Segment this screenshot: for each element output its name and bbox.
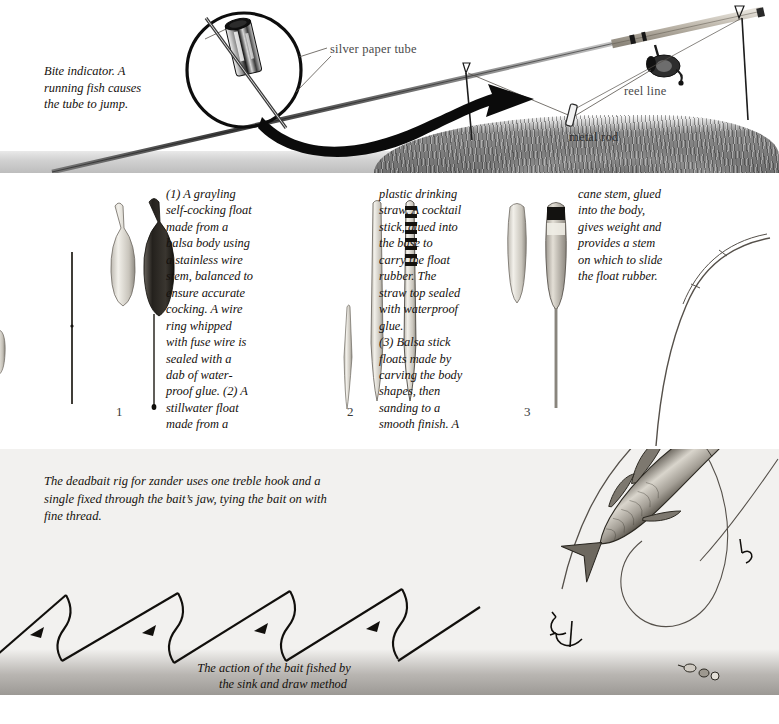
fishing-reel [646, 45, 684, 86]
magnifier-leader-lines [205, 21, 331, 92]
float-text-column-1: (1) A grayling self-cocking float made f… [166, 186, 270, 433]
col1-line-4: balsa body using [166, 235, 270, 251]
col2-line-11: floats made by [379, 351, 479, 367]
float-black-band [547, 207, 565, 220]
col2-line-9: glue. [379, 318, 479, 334]
balsa-stick-float-plain [508, 204, 527, 304]
bite-caption-line-2: running fish causes [44, 80, 194, 97]
sink-caption-line-1: The action of the bait fished by [197, 661, 351, 675]
label-reel-line: reel line [624, 84, 666, 99]
col2-line-3: stick, glued into [379, 219, 479, 235]
col2-line-4: the base to [379, 235, 479, 251]
col2-line-1: plastic drinking [379, 186, 479, 202]
single-hook [740, 539, 752, 563]
col1-line-6: stem, balanced to [166, 268, 270, 284]
sink-and-draw-caption: The action of the bait fished by the sin… [144, 660, 404, 692]
deadbait-rig-caption: The deadbait rig for zander uses one tre… [44, 473, 444, 526]
col1-line-11: sealed with a [166, 351, 270, 367]
col3-line-6: the float rubber. [578, 268, 682, 284]
float-text-column-3: cane stem, glued into the body, gives we… [578, 186, 682, 285]
figure-number-2: 2 [347, 404, 354, 419]
col3-line-5: on which to slide [578, 252, 682, 268]
col1-line-2: self-cocking float [166, 202, 270, 218]
bite-caption-line-1: Bite indicator. A [44, 63, 194, 80]
col2-line-2: straw. A cocktail [379, 202, 479, 218]
col2-line-10: (3) Balsa stick [379, 334, 479, 350]
illustration-plate: Bite indicator. A running fish causes th… [0, 0, 779, 724]
col1-line-10: with fuse wire is [166, 334, 270, 350]
col2-line-7: straw top sealed [379, 285, 479, 301]
rig-caption-line-1: The deadbait rig for zander uses one tre… [44, 473, 444, 491]
col2-line-12: carving the body [379, 367, 479, 383]
label-silver-paper-tube: silver paper tube [330, 42, 417, 57]
col2-line-8: with waterproof [379, 301, 479, 317]
bank-sticks [466, 18, 748, 140]
cocktail-stick [344, 305, 352, 409]
col1-line-12: dab of water- [166, 367, 270, 383]
float-edge-partial [0, 330, 5, 376]
figure-number-3: 3 [524, 404, 531, 419]
float-group-1: 1 [70, 199, 174, 420]
col1-line-15: made from a [166, 416, 270, 432]
balsa-body-float-light [111, 203, 135, 306]
col1-line-14: stillwater float [166, 400, 270, 416]
col1-line-3: made from a [166, 219, 270, 235]
float-construction-panel: 1 2 [0, 176, 779, 446]
col1-line-5: a stainless wire [166, 252, 270, 268]
col1-line-8: cocking. A wire [166, 301, 270, 317]
col1-line-13: proof glue. (2) A [166, 383, 270, 399]
col2-line-13: shapes, then [379, 383, 479, 399]
col2-line-6: rubber. The [379, 268, 479, 284]
zander-deadbait [544, 449, 761, 584]
silver-paper-tube [206, 16, 286, 128]
label-metal-rod: metal rod [569, 130, 618, 145]
figure-number-1: 1 [116, 404, 123, 419]
rig-caption-line-3: fine thread. [44, 508, 444, 526]
float-text-column-2: plastic drinking straw. A cocktail stick… [379, 186, 479, 433]
rig-caption-line-2: single fixed through the bait’s jaw, tyi… [44, 491, 444, 509]
col1-line-7: ensure accurate [166, 285, 270, 301]
swivel [678, 664, 719, 680]
col2-line-15: smooth finish. A [379, 416, 479, 432]
float-group-3: 3 [508, 203, 567, 420]
sink-caption-line-2: the sink and draw method [144, 676, 404, 692]
col3-line-2: into the body, [578, 202, 682, 218]
col3-line-1: cane stem, glued [578, 186, 682, 202]
bite-caption-line-3: the tube to jump. [44, 96, 194, 113]
sink-and-draw-path [0, 589, 480, 663]
col3-line-3: gives weight and [578, 219, 682, 235]
col2-line-14: sanding to a [379, 400, 479, 416]
bite-indicator-panel: Bite indicator. A running fish causes th… [0, 0, 779, 173]
deadbait-rig-panel: The deadbait rig for zander uses one tre… [0, 449, 779, 695]
col1-line-1: (1) A grayling [166, 186, 270, 202]
col2-line-5: carry the float [379, 252, 479, 268]
fish-body [581, 449, 753, 552]
col3-line-4: provides a stem [578, 235, 682, 251]
bite-indicator-caption: Bite indicator. A running fish causes th… [44, 63, 194, 113]
treble-hook [550, 612, 582, 647]
col1-line-9: ring whipped [166, 318, 270, 334]
